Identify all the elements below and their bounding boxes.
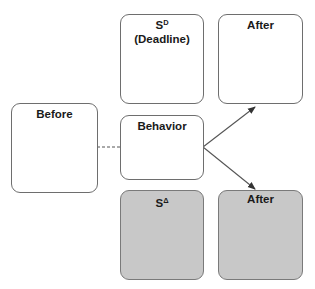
sd-superscript: D: [163, 18, 168, 27]
after-bottom-label: After: [219, 192, 302, 206]
behavior-label: Behavior: [121, 119, 203, 133]
box-after-bottom: After: [218, 190, 303, 280]
after-top-label: After: [219, 18, 302, 32]
arrow-behavior-to-after-top: [203, 107, 255, 147]
sd-label: SD: [121, 18, 203, 32]
box-sd-deadline: SD (Deadline): [120, 14, 204, 104]
sdelta-label: SΔ: [121, 196, 203, 210]
arrow-behavior-to-after-bottom: [203, 147, 255, 189]
sdelta-superscript: Δ: [163, 196, 168, 205]
before-label: Before: [12, 107, 97, 121]
box-after-top: After: [218, 14, 303, 104]
sd-sublabel: (Deadline): [121, 32, 203, 46]
box-sdelta: SΔ: [120, 190, 204, 280]
box-behavior: Behavior: [120, 115, 204, 180]
box-before: Before: [11, 103, 98, 193]
